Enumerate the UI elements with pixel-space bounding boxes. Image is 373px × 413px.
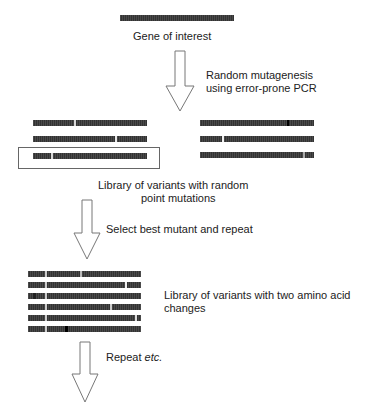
variant-bar bbox=[28, 326, 141, 332]
variant-bar bbox=[28, 271, 141, 277]
variant-bar bbox=[200, 136, 314, 142]
gene-label: Gene of interest bbox=[133, 30, 211, 43]
library1-label-line1: Library of variants with random bbox=[98, 179, 248, 192]
variant-bar bbox=[33, 120, 147, 126]
variant-bar bbox=[28, 315, 141, 321]
step2-label: Select best mutant and repeat bbox=[106, 223, 253, 236]
library1-label-line2: point mutations bbox=[141, 192, 216, 205]
step1-label-line2: using error-prone PCR bbox=[206, 82, 317, 95]
gene-bar bbox=[120, 15, 234, 21]
variant-bar bbox=[28, 304, 141, 310]
step1-label-line1: Random mutagenesis bbox=[206, 69, 313, 82]
step3-label: Repeat etc. bbox=[106, 351, 162, 364]
arrow-down-icon bbox=[165, 50, 195, 112]
selected-variant-bar bbox=[33, 153, 147, 159]
variant-bar bbox=[200, 152, 314, 158]
library2-label-line2: changes bbox=[164, 302, 206, 315]
library2-label-line1: Library of variants with two amino acid bbox=[164, 289, 350, 302]
variant-bar bbox=[33, 136, 147, 142]
variant-bar bbox=[200, 120, 314, 126]
arrow-down-icon bbox=[70, 341, 100, 403]
variant-bar bbox=[28, 282, 141, 288]
variant-bar bbox=[28, 293, 141, 299]
arrow-down-icon bbox=[72, 199, 102, 261]
